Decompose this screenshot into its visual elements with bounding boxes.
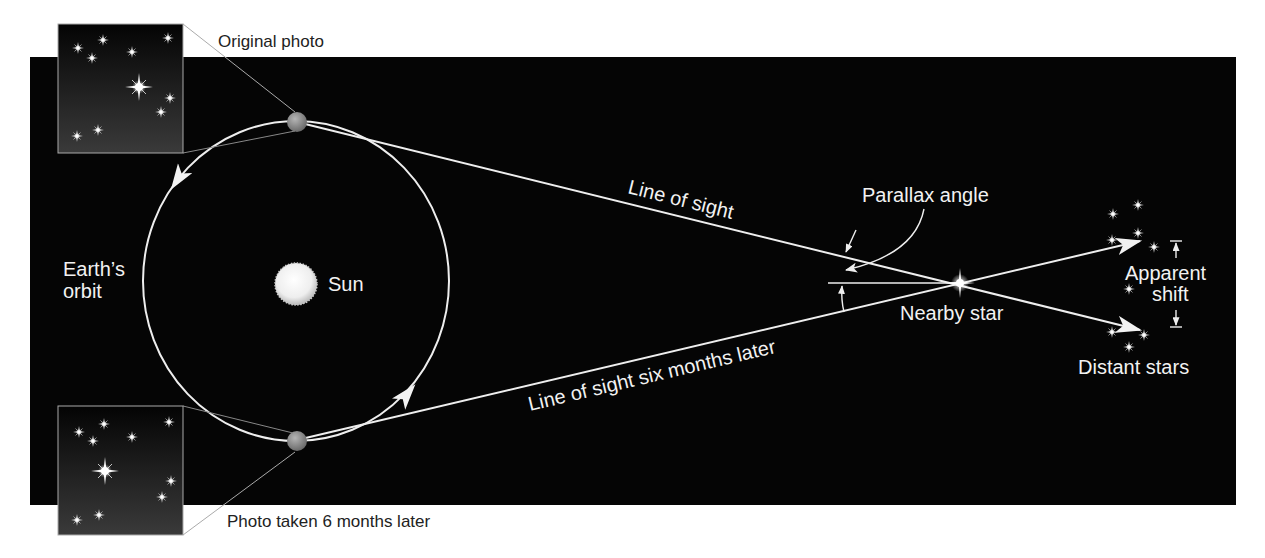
earth-icon-bottom bbox=[287, 431, 307, 451]
apparent-shift-label-line1: Apparent bbox=[1125, 262, 1207, 284]
space-panel bbox=[30, 57, 1236, 505]
sun-icon bbox=[275, 263, 317, 305]
sun-label: Sun bbox=[328, 273, 364, 295]
apparent-shift-label-line2: shift bbox=[1152, 283, 1189, 305]
later-photo-inset bbox=[58, 406, 183, 535]
original-photo-label: Original photo bbox=[218, 32, 324, 51]
earth-icon-top bbox=[287, 112, 307, 132]
earths-orbit-label-line2: orbit bbox=[63, 280, 102, 302]
parallax-angle-label: Parallax angle bbox=[862, 184, 989, 206]
nearby-star-label: Nearby star bbox=[900, 302, 1004, 324]
earths-orbit-label-line1: Earth’s bbox=[63, 258, 125, 280]
parallax-diagram: Sun Earth’s orbit Original photo bbox=[0, 0, 1265, 558]
distant-stars-label: Distant stars bbox=[1078, 356, 1189, 378]
photo-later-label: Photo taken 6 months later bbox=[227, 512, 431, 531]
original-photo-inset bbox=[58, 24, 183, 153]
